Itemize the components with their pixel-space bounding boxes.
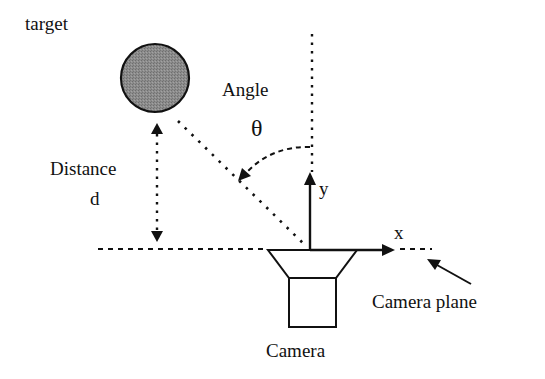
- y-axis: [304, 172, 316, 250]
- distance-arrow: [151, 123, 163, 242]
- theta-label: θ: [251, 115, 263, 141]
- distance-label: Distance: [50, 158, 116, 179]
- target-node: [121, 44, 189, 112]
- x-axis-label: x: [394, 222, 404, 243]
- pointer-arrow-icon: [427, 259, 441, 270]
- diagram-svg: target Angle θ Distance d y x Camera pla…: [0, 0, 545, 379]
- x-axis-arrow-icon: [382, 244, 395, 256]
- camera-label: Camera: [266, 340, 326, 361]
- y-axis-arrow-icon: [304, 172, 316, 185]
- distance-symbol-label: d: [90, 188, 100, 209]
- camera-plane-pointer: [427, 259, 471, 284]
- target-circle-icon: [121, 44, 189, 112]
- angle-arc: [238, 147, 310, 181]
- camera-lens: [268, 250, 357, 278]
- y-axis-label: y: [319, 178, 329, 199]
- camera-icon: [268, 250, 357, 327]
- arrow-down-icon: [151, 231, 163, 242]
- arrow-up-icon: [151, 123, 163, 134]
- target-label: target: [25, 13, 69, 34]
- line-of-sight: [178, 121, 306, 246]
- camera-body: [289, 278, 336, 327]
- camera-plane-label: Camera plane: [372, 291, 477, 312]
- diagram-canvas: target Angle θ Distance d y x Camera pla…: [0, 0, 545, 379]
- angle-label: Angle: [222, 79, 268, 100]
